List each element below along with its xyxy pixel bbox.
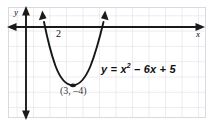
graph-canvas [0, 0, 213, 124]
y-axis-label: y [14, 8, 18, 17]
equation-left-part: y = x [101, 63, 127, 75]
x-tick-label-2: 2 [56, 29, 61, 39]
vertex-coordinate-label: (3, –4) [60, 86, 87, 96]
equation-label: y = x2 – 6x + 5 [101, 64, 176, 75]
quadratic-graph-figure: y x 2 (3, –4) y = x2 – 6x + 5 [0, 0, 213, 124]
x-axis-label: x [196, 30, 200, 39]
equation-right-part: – 6x + 5 [131, 63, 176, 75]
